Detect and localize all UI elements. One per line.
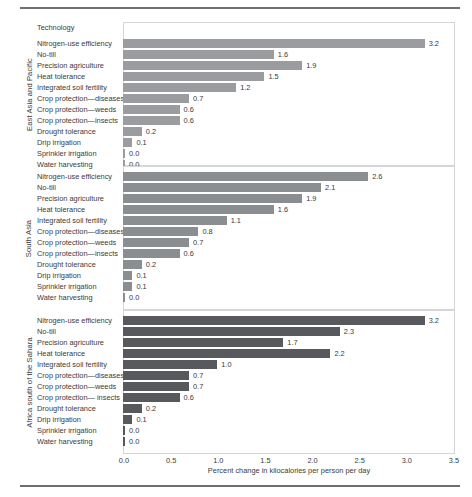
category-label: Water harvesting [37, 436, 123, 447]
bar-value-label: 2.1 [322, 182, 335, 193]
bar-value-label: 1.7 [284, 337, 297, 348]
bar [123, 393, 180, 402]
bar [123, 61, 302, 70]
x-tick-label: 2.5 [355, 456, 365, 466]
category-label: Water harvesting [37, 292, 123, 303]
category-label: Drought tolerance [37, 259, 123, 270]
x-tick-label: 1.0 [213, 456, 223, 466]
category-label: Crop protection— insects [37, 392, 123, 403]
bar [123, 271, 132, 280]
bar [123, 138, 132, 147]
bar-row: 0.6 [123, 104, 455, 115]
bar-row: 1.9 [123, 60, 455, 71]
category-label: Integrated soil fertility [37, 215, 123, 226]
x-axis-label: Percent change in kilocalories per perso… [123, 466, 455, 475]
category-label: Precision agriculture [37, 337, 123, 348]
category-label: Sprinkler irrigation [37, 425, 123, 436]
bar-row: 0.2 [123, 126, 455, 137]
plot-panels: 3.21.61.91.51.20.70.60.60.20.10.00.02.62… [123, 22, 455, 454]
category-label: Crop protection—diseases [37, 93, 123, 104]
bar-row: 2.1 [123, 182, 455, 193]
bar-row: 0.8 [123, 226, 455, 237]
bar [123, 50, 274, 59]
category-label: Precision agriculture [37, 60, 123, 71]
bar-value-label: 0.0 [126, 148, 139, 159]
region-label-2: Africa south of the Sahara [22, 310, 36, 454]
category-axis-labels: Nitrogen-use efficiencyNo-tillPrecision … [37, 22, 123, 454]
bar-value-label: 0.1 [133, 281, 146, 292]
bar-row: 1.9 [123, 193, 455, 204]
bar [123, 260, 142, 269]
category-label: Sprinkler irrigation [37, 148, 123, 159]
bar-value-label: 0.2 [143, 126, 156, 137]
category-label: Crop protection—weeds [37, 237, 123, 248]
region-label-text: Africa south of the Sahara [25, 337, 34, 427]
category-label: Precision agriculture [37, 193, 123, 204]
x-tick-label: 0.5 [166, 456, 176, 466]
bar-row: 3.2 [123, 38, 455, 49]
bar [123, 183, 321, 192]
region-label-0: East Asia and Pacific [22, 22, 36, 166]
bar-value-label: 0.2 [143, 259, 156, 270]
bar [123, 293, 125, 302]
bar-row: 0.0 [123, 148, 455, 159]
bar [123, 238, 189, 247]
bar-row: 0.0 [123, 425, 455, 436]
bar-row: 3.2 [123, 315, 455, 326]
category-label: Crop protection—weeds [37, 381, 123, 392]
category-label: Nitrogen-use efficiency [37, 38, 123, 49]
bar [123, 404, 142, 413]
bar-row: 0.1 [123, 137, 455, 148]
category-label: Heat tolerance [37, 71, 123, 82]
bar-row: 0.6 [123, 115, 455, 126]
bar-row: 0.7 [123, 237, 455, 248]
category-label: Crop protection—diseases [37, 370, 123, 381]
bar [123, 227, 198, 236]
category-label: Drip irrigation [37, 270, 123, 281]
category-label: Drought tolerance [37, 403, 123, 414]
bar [123, 72, 264, 81]
bar-value-label: 0.7 [190, 237, 203, 248]
category-label: Water harvesting [37, 159, 123, 170]
bottom-divider-rule [20, 485, 460, 487]
bar-value-label: 0.1 [133, 137, 146, 148]
x-tick-label: 1.5 [260, 456, 270, 466]
bar-value-label: 1.9 [303, 60, 316, 71]
category-label: Integrated soil fertility [37, 82, 123, 93]
bar-value-label: 1.9 [303, 193, 316, 204]
bar [123, 39, 425, 48]
bar [123, 172, 368, 181]
category-label: Drip irrigation [37, 137, 123, 148]
bar-row: 1.5 [123, 71, 455, 82]
bar-row: 0.1 [123, 414, 455, 425]
x-tick-label: 3.5 [449, 456, 459, 466]
bar [123, 415, 132, 424]
bar [123, 282, 132, 291]
bar-row: 2.6 [123, 171, 455, 182]
region-label-text: South Asia [25, 219, 34, 256]
bar-value-label: 1.1 [228, 215, 241, 226]
bar-value-label: 1.5 [265, 71, 278, 82]
bar-row: 1.2 [123, 82, 455, 93]
x-tick-label: 3.0 [402, 456, 412, 466]
x-tick-label: 0.0 [119, 456, 129, 466]
category-label: Drip irrigation [37, 414, 123, 425]
figure-bar-chart-technology-impact: Technology East Asia and PacificSouth As… [0, 0, 472, 497]
bar-row: 0.6 [123, 248, 455, 259]
bar-value-label: 0.6 [181, 248, 194, 259]
bar-value-label: 2.3 [341, 326, 354, 337]
category-label: Nitrogen-use efficiency [37, 315, 123, 326]
category-label: No-till [37, 182, 123, 193]
top-divider-rule [20, 7, 460, 9]
category-label: Heat tolerance [37, 204, 123, 215]
bar [123, 316, 425, 325]
bar-row: 1.6 [123, 49, 455, 60]
bar-row: 0.7 [123, 381, 455, 392]
bar-row: 0.7 [123, 93, 455, 104]
bar [123, 105, 180, 114]
bar-row: 0.1 [123, 270, 455, 281]
bar-row: 0.1 [123, 281, 455, 292]
bar-value-label: 0.0 [126, 436, 139, 447]
bar-value-label: 0.1 [133, 414, 146, 425]
bar [123, 249, 180, 258]
